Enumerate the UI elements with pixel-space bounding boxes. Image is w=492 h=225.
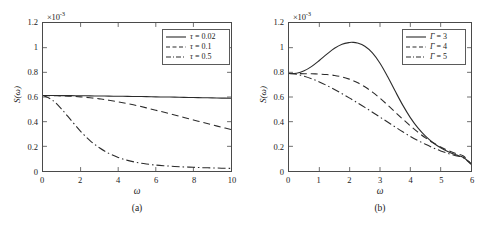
- x-tick-label: 8: [184, 176, 204, 185]
- y-tick-label: 0.6: [12, 93, 38, 102]
- x-tick-label: 6: [146, 176, 166, 185]
- x-axis-label-b: ω: [360, 187, 400, 197]
- legend-b: Γ = 3Γ = 4Γ = 5: [402, 29, 466, 65]
- y-tick-label: 0: [12, 168, 38, 177]
- x-tick-label: 10: [222, 176, 242, 185]
- y-tick-label: 1: [12, 43, 38, 52]
- y-axis-multiplier-b: ×10-3: [293, 10, 311, 22]
- x-tick-label: 4: [108, 176, 128, 185]
- legend-label: Γ = 5: [430, 53, 447, 61]
- legend-item: Γ = 3: [405, 32, 462, 42]
- legend-item: τ = 0.5: [165, 52, 226, 62]
- y-tick-label: 1.2: [258, 18, 284, 27]
- panel-a: ×10-3 S(ω) ω (a) τ = 0.02τ = 0.1τ = 0.5 …: [0, 0, 246, 225]
- y-tick-label: 0: [258, 168, 284, 177]
- y-tick-label: 0.4: [258, 118, 284, 127]
- legend-line-sample: [165, 53, 187, 61]
- legend-item: Γ = 5: [405, 52, 462, 62]
- x-tick-label: 1: [309, 176, 329, 185]
- x-tick-label: 3: [370, 176, 390, 185]
- legend-label: τ = 0.5: [190, 53, 211, 61]
- x-tick-label: 5: [431, 176, 451, 185]
- legend-item: Γ = 4: [405, 42, 462, 52]
- x-tick-label: 0: [32, 176, 52, 185]
- x-tick-label: 6: [462, 176, 482, 185]
- y-tick-label: 0.8: [258, 68, 284, 77]
- legend-line-sample: [405, 53, 427, 61]
- y-tick-label: 1.2: [12, 18, 38, 27]
- x-tick-label: 2: [339, 176, 359, 185]
- panel-caption-b: (b): [350, 204, 410, 214]
- x-tick-label: 4: [401, 176, 421, 185]
- legend-label: Γ = 4: [430, 43, 447, 51]
- legend-label: τ = 0.02: [190, 33, 215, 41]
- legend-line-sample: [405, 43, 427, 51]
- legend-label: Γ = 3: [430, 33, 447, 41]
- legend-a: τ = 0.02τ = 0.1τ = 0.5: [162, 29, 230, 65]
- y-tick-label: 0.8: [12, 68, 38, 77]
- y-tick-label: 0.4: [12, 118, 38, 127]
- x-tick-label: 0: [278, 176, 298, 185]
- x-tick-label: 2: [70, 176, 90, 185]
- x-axis-label-a: ω: [117, 187, 157, 197]
- y-tick-label: 0.2: [258, 143, 284, 152]
- legend-line-sample: [165, 33, 187, 41]
- legend-line-sample: [405, 33, 427, 41]
- legend-item: τ = 0.1: [165, 42, 226, 52]
- y-axis-multiplier-a: ×10-3: [47, 10, 65, 22]
- panel-b: ×10-3 S(ω) ω (b) Γ = 3Γ = 4Γ = 5 0123456…: [246, 0, 492, 225]
- y-tick-label: 0.6: [258, 93, 284, 102]
- panel-caption-a: (a): [107, 204, 167, 214]
- y-tick-label: 0.2: [12, 143, 38, 152]
- legend-item: τ = 0.02: [165, 32, 226, 42]
- legend-line-sample: [165, 43, 187, 51]
- legend-label: τ = 0.1: [190, 43, 211, 51]
- y-tick-label: 1: [258, 43, 284, 52]
- figure-container: ×10-3 S(ω) ω (a) τ = 0.02τ = 0.1τ = 0.5 …: [0, 0, 492, 225]
